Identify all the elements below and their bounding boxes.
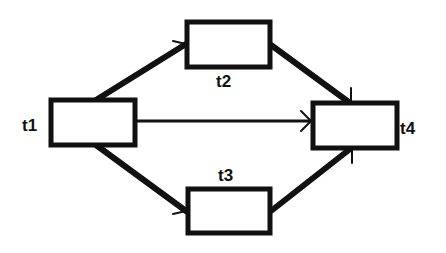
node-t3-label: t3 xyxy=(218,166,233,185)
edge-t1-t3 xyxy=(96,145,186,214)
node-t4-box xyxy=(313,103,397,148)
edge-t2-t4 xyxy=(271,45,351,103)
node-t3-box xyxy=(188,189,270,233)
node-t1-label: t1 xyxy=(22,116,37,135)
edge-t3-t4 xyxy=(271,149,352,211)
node-t2-box xyxy=(187,22,270,67)
edge-t1-t4 xyxy=(135,111,311,131)
node-t4-label: t4 xyxy=(400,119,416,138)
node-t2-label: t2 xyxy=(216,72,231,91)
node-t1-box xyxy=(51,100,135,145)
edge-t1-t2 xyxy=(96,41,186,100)
task-graph-diagram: t1 t2 t3 t4 xyxy=(0,0,446,253)
